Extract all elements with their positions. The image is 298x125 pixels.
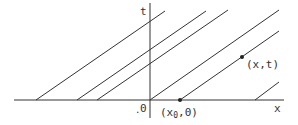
field-point-marker [240,55,244,59]
characteristic-line [36,11,165,100]
characteristics-diagram: t x . 0 (x0,0) (x,t) [0,0,298,125]
origin-label: 0 [140,103,147,114]
base-point-label-suffix: ,0) [178,106,198,119]
base-point-label-prefix: (x [160,106,173,119]
characteristic-line [77,11,206,100]
characteristic-line [255,82,279,100]
base-point-marker [178,98,182,102]
field-point-label: (x,t) [246,59,279,70]
t-axis-label: t [140,6,147,17]
base-point-label: (x0,0) [160,107,198,120]
characteristic-line [150,10,279,100]
characteristic-lines [36,10,279,100]
characteristic-line [97,10,228,100]
x-axis-label: x [274,103,281,114]
